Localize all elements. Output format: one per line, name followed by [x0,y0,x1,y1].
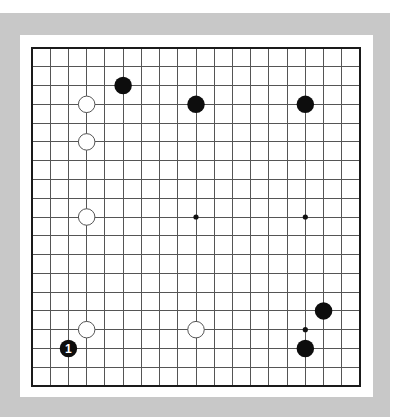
white-stone-disc [188,321,204,337]
white-stone-disc [78,134,94,150]
black-stone[interactable] [297,340,314,357]
white-stone[interactable] [78,134,94,150]
white-stone[interactable] [188,321,204,337]
black-stone[interactable] [297,96,314,113]
black-stone-disc [297,96,314,113]
black-stone-disc [315,302,332,319]
white-stone[interactable] [78,96,94,112]
star-point [303,214,308,219]
black-stone[interactable] [187,96,204,113]
white-stone-disc [78,321,94,337]
white-stone-disc [78,209,94,225]
black-stone[interactable] [114,77,131,94]
black-stone[interactable]: 1 [60,340,77,357]
white-stone-disc [78,96,94,112]
star-point [193,214,198,219]
go-board[interactable]: 1 [0,0,395,417]
white-stone[interactable] [78,321,94,337]
white-stone[interactable] [78,209,94,225]
star-point [303,327,308,332]
black-stone[interactable] [315,302,332,319]
black-stone-disc [187,96,204,113]
black-stone-disc [114,77,131,94]
move-number-label: 1 [65,342,72,356]
black-stone-disc [297,340,314,357]
